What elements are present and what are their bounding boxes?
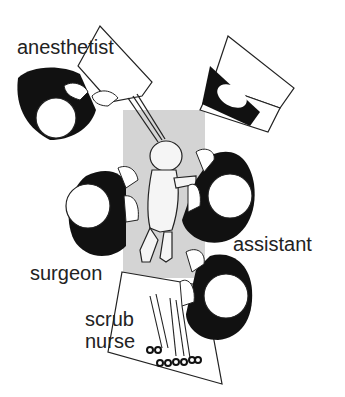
- label-assistant: assistant: [233, 234, 312, 254]
- diagram-canvas: [0, 0, 345, 397]
- label-surgeon: surgeon: [30, 263, 102, 283]
- operating-room-diagram: anesthetist assistant surgeon scrub nurs…: [0, 0, 345, 397]
- monitor: [200, 36, 294, 132]
- label-nurse: nurse: [85, 331, 135, 351]
- label-scrub: scrub: [85, 309, 134, 329]
- scrub-nurse-figure: [180, 250, 252, 340]
- label-anesthetist: anesthetist: [17, 37, 114, 57]
